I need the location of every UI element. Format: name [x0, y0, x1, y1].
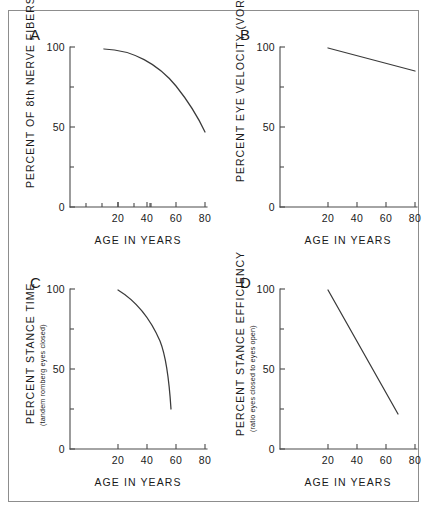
panel-c: C PERCENT STANCE TIME (tandem romberg ey… [8, 256, 218, 502]
panel-a-xlabel-20: 20 [112, 212, 124, 224]
panel-a-xlabel-80: 80 [199, 212, 211, 224]
panel-d-xlabel-60: 60 [380, 454, 392, 466]
panel-a-data-curve [104, 49, 205, 132]
panel-c-ysublabel: (tandem romberg eyes closed) [38, 324, 47, 426]
panel-d-ylabel-0: 0 [269, 443, 275, 455]
panel-a-xlabel-40: 40 [141, 212, 153, 224]
figure-root: A PERCENT OF 8th NERVE FIBERS 100 50 0 [0, 0, 428, 513]
panel-b-xlabel-20: 20 [322, 212, 334, 224]
panel-c-ylabel-100: 100 [47, 283, 65, 295]
panel-d-xlabel-80: 80 [409, 454, 421, 466]
panel-c-ylabel-0: 0 [59, 443, 65, 455]
panel-d-xlabel-40: 40 [351, 454, 363, 466]
panel-d-ysublabel: (ratio eyes closed to eyes open) [248, 325, 257, 432]
panel-b-xlabel-60: 60 [380, 212, 392, 224]
panel-b-ylabel-100: 100 [257, 41, 275, 53]
panel-d: D PERCENT STANCE EFFICIENCY (ratio eyes … [218, 256, 428, 502]
panel-a-xaxis-title: AGE IN YEARS [94, 234, 181, 246]
panel-d-ylabel-100: 100 [257, 283, 275, 295]
panel-a-ylabel-0: 0 [59, 201, 65, 213]
panel-b-xaxis-title: AGE IN YEARS [304, 234, 391, 246]
panel-c-xlabel-20: 20 [112, 454, 124, 466]
panel-a-xlabel-60: 60 [170, 212, 182, 224]
panel-c-data-curve [118, 290, 171, 409]
panel-a-ylabel-100: 100 [47, 41, 65, 53]
panel-b-ylabel-0: 0 [269, 201, 275, 213]
panel-d-ylabel: PERCENT STANCE EFFICIENCY [234, 251, 246, 436]
panel-b-ylabel-50: 50 [263, 121, 275, 133]
panel-d-xlabel-20: 20 [322, 454, 334, 466]
panel-c-ylabel-50: 50 [53, 363, 65, 375]
panel-d-ylabel-50: 50 [263, 363, 275, 375]
panel-c-xlabel-80: 80 [199, 454, 211, 466]
panel-d-data-line [328, 290, 398, 414]
panel-b: B PERCENT EYE VELOCITY (VOR) 100 50 0 20… [218, 10, 428, 256]
panel-c-xaxis-title: AGE IN YEARS [94, 476, 181, 488]
panel-d-xaxis-title: AGE IN YEARS [304, 476, 391, 488]
panel-b-xlabel-40: 40 [351, 212, 363, 224]
panel-a-ylabel: PERCENT OF 8th NERVE FIBERS [24, 0, 36, 188]
panel-b-data-line [328, 48, 415, 71]
panel-a-ylabel-50: 50 [53, 121, 65, 133]
panel-c-xlabel-40: 40 [141, 454, 153, 466]
panel-c-xlabel-60: 60 [170, 454, 182, 466]
panel-b-ylabel: PERCENT EYE VELOCITY (VOR) [234, 0, 246, 182]
panel-a: A PERCENT OF 8th NERVE FIBERS 100 50 0 [8, 10, 218, 256]
panel-b-xlabel-80: 80 [409, 212, 421, 224]
panel-c-ylabel: PERCENT STANCE TIME [24, 282, 36, 424]
